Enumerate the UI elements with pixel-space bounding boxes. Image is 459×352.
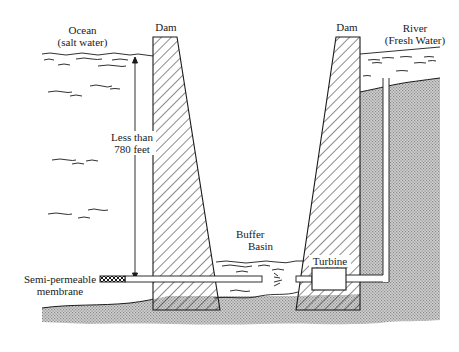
left-dam-label: Dam bbox=[150, 21, 182, 33]
river-label: River (Fresh Water) bbox=[375, 22, 455, 46]
intake-pipe bbox=[125, 276, 262, 282]
buffer-basin-label-line1: Buffer bbox=[236, 228, 286, 240]
height-label-line1: Less than bbox=[108, 131, 156, 143]
buffer-basin-label-line2: Basin bbox=[236, 240, 286, 252]
ocean-label: Ocean (salt water) bbox=[40, 24, 125, 48]
turbine-box bbox=[312, 268, 346, 290]
right-dam-label: Dam bbox=[330, 21, 364, 33]
semi-permeable-membrane bbox=[100, 276, 125, 282]
river-label-line2: (Fresh Water) bbox=[375, 34, 455, 46]
river-bank-ground bbox=[360, 78, 440, 300]
turbine-inlet-pipe bbox=[346, 275, 388, 282]
turbine-label: Turbine bbox=[309, 255, 351, 267]
water-spray bbox=[274, 273, 282, 286]
osmotic-dam-diagram bbox=[0, 0, 459, 352]
membrane-label-line1: Semi-permeable bbox=[20, 273, 100, 285]
left-dam bbox=[153, 37, 220, 310]
river-label-line1: River bbox=[375, 22, 455, 34]
turbine-outlet-pipe bbox=[296, 276, 312, 282]
ocean-label-line2: (salt water) bbox=[40, 36, 125, 48]
membrane-label: Semi-permeable membrane bbox=[20, 273, 100, 297]
height-dimension-arrow bbox=[133, 57, 138, 279]
height-label-line2: 780 feet bbox=[108, 143, 156, 155]
river-water bbox=[360, 47, 440, 76]
membrane-label-line2: membrane bbox=[20, 285, 100, 297]
height-label: Less than 780 feet bbox=[108, 131, 156, 155]
ocean-label-line1: Ocean bbox=[40, 24, 125, 36]
buffer-basin-label: Buffer Basin bbox=[236, 228, 286, 252]
